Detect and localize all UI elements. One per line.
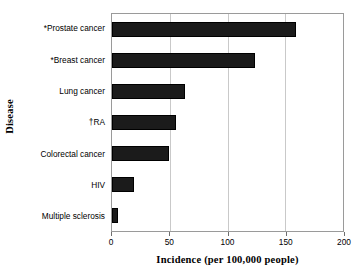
bar-slot [112,45,343,76]
bar-slot [112,76,343,107]
bar [112,208,118,223]
y-axis-tick-label: †RA [16,107,109,138]
x-axis-tick-label: 0 [109,238,114,246]
x-axis-title: Incidence (per 100,000 people) [111,254,344,265]
y-axis-tick-label: Colorectal cancer [16,138,109,169]
y-axis-tick-labels: *Prostate cancer*Breast cancerLung cance… [16,13,109,232]
plot-area [111,13,344,232]
bar-slot [112,200,343,231]
bar [112,146,169,161]
x-axis-tick-label: 150 [279,238,293,246]
bar [112,53,255,68]
y-axis-tick-label: Multiple sclerosis [16,201,109,232]
y-axis-title-label: Disease [4,99,15,134]
y-axis-tick-label: *Prostate cancer [16,13,109,44]
bar [112,84,185,99]
bar [112,177,134,192]
bar-series [112,14,343,231]
x-axis-tick [228,232,229,236]
x-axis-tick [344,232,345,236]
x-axis-tick [286,232,287,236]
bar-slot [112,14,343,45]
bar [112,22,296,37]
bar-slot [112,107,343,138]
bar-slot [112,169,343,200]
x-axis-tick [111,232,112,236]
bar-slot [112,138,343,169]
x-axis-tick [169,232,170,236]
x-axis-tick-label: 50 [165,238,174,246]
y-axis-tick-label: HIV [16,169,109,200]
x-axis-tick-label: 100 [221,238,235,246]
x-axis-tick-labels: 050100150200 [111,238,344,251]
x-axis-tick-label: 200 [337,238,351,246]
y-axis-tick-label: Lung cancer [16,76,109,107]
y-axis-tick-label: *Breast cancer [16,44,109,75]
bar [112,115,176,130]
incidence-bar-chart: Disease *Prostate cancer*Breast cancerLu… [0,0,363,278]
